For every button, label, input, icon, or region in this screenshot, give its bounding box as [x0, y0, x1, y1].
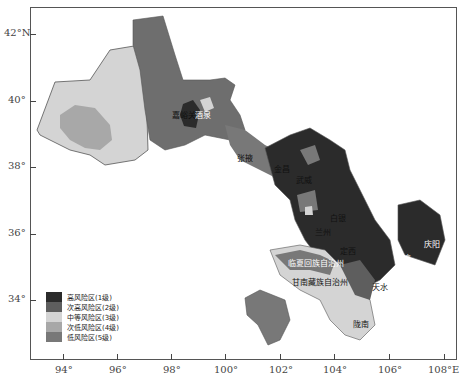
legend-item: 低风险区(5级) [46, 332, 119, 342]
place-linxia: 临夏回族自治州 [288, 257, 344, 268]
x-tick [225, 354, 226, 360]
lon-label-108: 108°E [428, 364, 459, 375]
place-tianshui: 天水 [372, 281, 388, 292]
lat-label-40: 40° [8, 94, 26, 105]
legend-label: 低风险区(5级) [67, 332, 112, 342]
legend: 高风险区(1级) 次高风险区(2级) 中等风险区(3级) 次低风险区(4级) 低… [46, 292, 119, 342]
legend-item: 次低风险区(4级) [46, 322, 119, 332]
lon-label-98: 98° [163, 364, 181, 375]
x-tick [117, 354, 118, 360]
legend-label: 次低风险区(4级) [67, 322, 119, 332]
y-tick [30, 234, 36, 235]
legend-item: 次高风险区(2级) [46, 302, 119, 312]
lon-label-96: 96° [109, 364, 127, 375]
legend-label: 高风险区(1级) [67, 292, 112, 302]
x-tick [171, 354, 172, 360]
legend-swatch [46, 322, 62, 332]
y-tick [30, 167, 36, 168]
lon-label-106: 106° [378, 364, 402, 375]
legend-swatch [46, 312, 62, 322]
lon-label-104: 104° [323, 364, 347, 375]
place-zhangye: 张掖 [237, 152, 253, 163]
place-jiuquan: 酒泉 [195, 109, 211, 120]
legend-label: 次高风险区(2级) [67, 302, 119, 312]
legend-swatch [46, 292, 62, 302]
lon-label-94: 94° [55, 364, 73, 375]
legend-label: 中等风险区(3级) [67, 312, 119, 322]
x-tick [444, 354, 445, 360]
x-tick [280, 354, 281, 360]
place-qingyang: 庆阳 [424, 238, 440, 249]
place-pingliang: 平凉 [395, 252, 411, 263]
x-tick [334, 354, 335, 360]
y-tick [30, 101, 36, 102]
legend-swatch [46, 332, 62, 342]
x-tick [63, 354, 64, 360]
lat-label-38: 38° [8, 160, 26, 171]
lon-label-100: 100° [214, 364, 238, 375]
place-jinchang: 金昌 [274, 163, 290, 174]
place-jiayuguan: 嘉峪关 [172, 109, 196, 120]
lat-label-34: 34° [8, 293, 26, 304]
place-gannan: 甘南藏族自治州 [292, 276, 348, 287]
place-longnan: 陇南 [353, 318, 369, 329]
place-dingxi: 定西 [340, 245, 356, 256]
place-baiyin: 白银 [330, 212, 346, 223]
legend-item: 中等风险区(3级) [46, 312, 119, 322]
x-tick [389, 354, 390, 360]
y-tick [30, 300, 36, 301]
place-wuwei: 武威 [296, 174, 312, 185]
y-tick [30, 34, 36, 35]
legend-item: 高风险区(1级) [46, 292, 119, 302]
place-lanzhou: 兰州 [315, 226, 331, 237]
lon-label-102: 102° [269, 364, 293, 375]
legend-swatch [46, 302, 62, 312]
lat-label-36: 36° [8, 227, 26, 238]
lat-label-42: 42°N [4, 27, 30, 38]
